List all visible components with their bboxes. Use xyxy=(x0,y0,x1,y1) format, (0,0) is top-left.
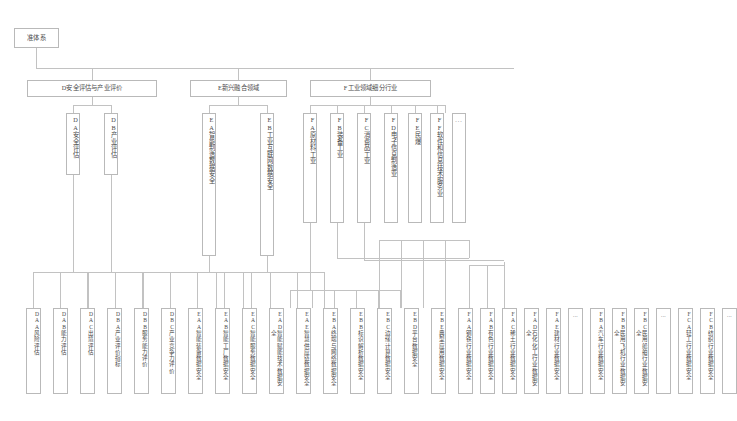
leaf-eba-code: EBA xyxy=(331,311,337,330)
leaf-fab[interactable]: FAB有色行业数据安全 xyxy=(480,308,495,394)
leaf-eaa[interactable]: EAA智能装备数据安全 xyxy=(188,308,203,394)
leaf-dac[interactable]: DAC出境评估 xyxy=(80,308,95,394)
connector-fa-fad xyxy=(356,290,357,308)
leaf-dab-code: DAB xyxy=(61,311,67,330)
leaf-dab[interactable]: DAB能力评估 xyxy=(53,308,68,394)
leaf-fca[interactable]: FCA轻工行业数据安全 xyxy=(678,308,693,394)
node-da[interactable]: DA 安全评估 xyxy=(66,113,80,175)
leaf-fbc[interactable]: FBC民用船舶行业数据安全 xyxy=(634,308,649,394)
node-eb[interactable]: EB 工业互联网数据安全 xyxy=(260,113,274,256)
connector-ea-ead xyxy=(224,272,225,308)
leaf-eba-label: 终端与网络数据安全 xyxy=(331,330,337,386)
connector-level2-bus xyxy=(36,68,514,69)
connector-d-to-db xyxy=(111,105,112,113)
leaf-fad-code: FAD xyxy=(532,311,538,330)
leaf-fa_ell[interactable]: ... xyxy=(568,308,583,394)
connector-fb-fbb xyxy=(401,240,402,308)
leaf-dbc[interactable]: DBC产业竞争力评价 xyxy=(161,308,176,394)
node-eb-code: EB xyxy=(266,116,273,131)
connector-f-to-fb xyxy=(337,105,338,113)
leaf-ebc-code: EBC xyxy=(385,311,391,330)
leaf-daa-label: 风险评估 xyxy=(34,330,40,355)
node-fc-code: FC xyxy=(363,116,370,131)
leaf-dab-label: 能力评估 xyxy=(61,330,67,355)
leaf-ead[interactable]: EAD智能赋能技术数据安全 xyxy=(269,308,284,394)
connector-f-stem xyxy=(370,97,371,105)
leaf-fac-code: FAC xyxy=(510,311,516,330)
leaf-dbb[interactable]: DBB服务能力评价 xyxy=(134,308,149,394)
node-eb-label: 工业互联网数据安全 xyxy=(266,131,273,190)
node-fd[interactable]: FD 电子信息制造业 xyxy=(384,113,398,223)
connector-da-stem xyxy=(73,175,74,272)
connector-e-bus xyxy=(209,105,267,106)
leaf-fbb[interactable]: FBB民用飞机行业数据安全 xyxy=(612,308,627,394)
node-fa[interactable]: FA 原材料工业 xyxy=(303,113,317,223)
leaf-fbc-code: FBC xyxy=(642,311,648,330)
node-ff[interactable]: FF 软件和信息技术服务业 xyxy=(430,113,444,223)
leaf-fb_ell[interactable]: ... xyxy=(656,308,671,394)
connector-da-daa xyxy=(33,272,34,308)
leaf-dac-label: 出境评估 xyxy=(88,330,94,355)
leaf-eae[interactable]: EAE智慧供应链数据安全 xyxy=(296,308,311,394)
connector-fa-faa xyxy=(290,290,291,308)
connector-fc-stem xyxy=(364,223,365,260)
leaf-fcb[interactable]: FCB纺织行业数据安全 xyxy=(700,308,715,394)
node-fc[interactable]: FC 消费品工业 xyxy=(357,113,371,223)
connector-fc-riser xyxy=(504,262,505,308)
connector-f-to-fe xyxy=(415,105,416,113)
connector-drop-f xyxy=(370,68,371,80)
node-f-ellipsis[interactable]: ... xyxy=(452,113,466,223)
leaf-ebe[interactable]: EBE典型应用数据安全 xyxy=(431,308,446,394)
node-d-branch[interactable]: D安全评估与产业评价 xyxy=(27,80,157,97)
leaf-faa-code: FAA xyxy=(466,311,472,330)
connector-e-to-ea xyxy=(209,105,210,113)
leaf-ebb[interactable]: EBB标识解析数据安全 xyxy=(350,308,365,394)
leaf-fae-label: 建材行业数据安全 xyxy=(554,330,560,380)
leaf-fac[interactable]: FAC稀土行业数据安全 xyxy=(502,308,517,394)
node-ea[interactable]: EA 智能制造数据安全 xyxy=(202,113,216,256)
node-db-label: 产业评估 xyxy=(110,131,117,157)
leaf-dba-label: 产业评价指标 xyxy=(115,330,121,368)
connector-fc-top xyxy=(469,265,504,266)
leaf-fcb-label: 纺织行业数据安全 xyxy=(708,330,714,380)
node-e-branch[interactable]: E新兴融合领域 xyxy=(190,80,287,97)
node-f-branch[interactable]: F工业领域细分行业 xyxy=(310,80,431,97)
leaf-eab-code: EAB xyxy=(223,311,229,330)
connector-fb-top xyxy=(379,240,469,241)
leaf-ebd-label: 平台数据安全 xyxy=(412,330,418,368)
leaf-fae-code: FAE xyxy=(554,311,560,330)
connector-f-to-fd xyxy=(391,105,392,113)
leaf-ebc[interactable]: EBC边缘计算数据安全 xyxy=(377,308,392,394)
leaf-faa[interactable]: FAA钢铁行业数据安全 xyxy=(458,308,473,394)
leaf-eae-code: EAE xyxy=(304,311,310,330)
node-fe[interactable]: FE 民爆 xyxy=(408,113,422,223)
leaf-daa[interactable]: DAA风险评估 xyxy=(26,308,41,394)
connector-eb-ebc xyxy=(270,272,271,308)
leaf-eab[interactable]: EAB智能工厂数据安全 xyxy=(215,308,230,394)
connector-ea-eae xyxy=(251,272,252,308)
connector-fb-fba xyxy=(379,240,380,308)
node-fb[interactable]: FB 装备工业 xyxy=(330,113,344,223)
node-fe-label: 民爆 xyxy=(414,131,421,144)
leaf-ebd[interactable]: EBD平台数据安全 xyxy=(404,308,419,394)
node-ea-code: EA xyxy=(208,116,215,131)
connector-f-to-fa xyxy=(310,105,311,113)
leaf-fab-label: 有色行业数据安全 xyxy=(488,330,494,380)
node-root[interactable]: 准体系 xyxy=(14,28,59,48)
node-db-code: DB xyxy=(110,116,117,131)
leaf-fbb-label: 民用飞机行业数据安全 xyxy=(614,330,627,392)
leaf-fba[interactable]: FBA汽车行业数据安全 xyxy=(590,308,605,394)
leaf-fc_ell[interactable]: ... xyxy=(722,308,737,394)
node-db[interactable]: DB 产业评估 xyxy=(104,113,118,175)
connector-ea-eab xyxy=(170,272,171,308)
leaf-fad[interactable]: FAD石化化工行业数据安全 xyxy=(524,308,539,394)
leaf-eac[interactable]: EAC智能服务数据安全 xyxy=(242,308,257,394)
leaf-fae[interactable]: FAE建材行业数据安全 xyxy=(546,308,561,394)
connector-d-stem xyxy=(92,97,93,105)
node-fb-code: FB xyxy=(336,116,343,131)
leaf-eaa-label: 智能装备数据安全 xyxy=(196,330,202,380)
connector-fb-stem xyxy=(337,223,338,258)
leaf-dba[interactable]: DBA产业评价指标 xyxy=(107,308,122,394)
leaf-fbb-code: FBB xyxy=(620,311,626,330)
leaf-eba[interactable]: EBA终端与网络数据安全 xyxy=(323,308,338,394)
